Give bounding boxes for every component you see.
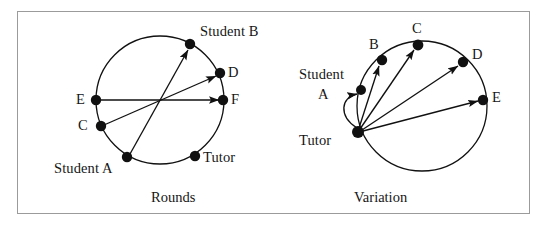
arrow-tutor-to-b	[359, 66, 379, 128]
node-f	[218, 95, 228, 105]
label-variation-e: E	[492, 90, 501, 105]
label-variation-d: D	[472, 47, 483, 62]
label-rounds-c: C	[78, 118, 88, 133]
arrow-tutor-to-student-a	[344, 94, 357, 128]
arrow-tutor-to-e	[363, 101, 478, 131]
label-rounds-student-a: Student A	[54, 161, 113, 176]
node-student-a	[122, 152, 132, 162]
label-variation-student-a: A	[318, 87, 329, 102]
label-variation-tutor: Tutor	[299, 133, 331, 148]
label-rounds-student-b: Student B	[200, 24, 259, 39]
caption-rounds: Rounds	[151, 190, 195, 205]
node-c	[96, 121, 106, 131]
figure-page: E C Student A Tutor Student B D F Rounds…	[0, 0, 550, 227]
label-rounds-d: D	[228, 65, 239, 80]
label-rounds-e: E	[76, 92, 85, 107]
node-tutor	[352, 126, 364, 138]
node-d	[215, 68, 225, 78]
panel-rounds	[91, 36, 228, 164]
diagram-canvas	[0, 0, 550, 227]
label-rounds-f: F	[231, 92, 239, 107]
node-c	[413, 40, 424, 51]
node-student-b	[185, 39, 195, 49]
label-variation-b: B	[369, 37, 379, 52]
node-student-a	[356, 85, 366, 95]
node-tutor	[190, 151, 200, 161]
arrow-tutor-to-c	[360, 50, 414, 129]
node-d	[458, 57, 468, 67]
label-variation-student: Student	[299, 67, 344, 82]
node-b	[377, 55, 387, 65]
node-e	[478, 95, 488, 105]
caption-variation: Variation	[354, 190, 407, 205]
node-e	[91, 95, 101, 105]
label-variation-c: C	[412, 21, 422, 36]
arrow-student-a-to-student-b	[130, 50, 188, 154]
panel-variation	[344, 40, 488, 171]
label-rounds-tutor: Tutor	[203, 150, 235, 165]
